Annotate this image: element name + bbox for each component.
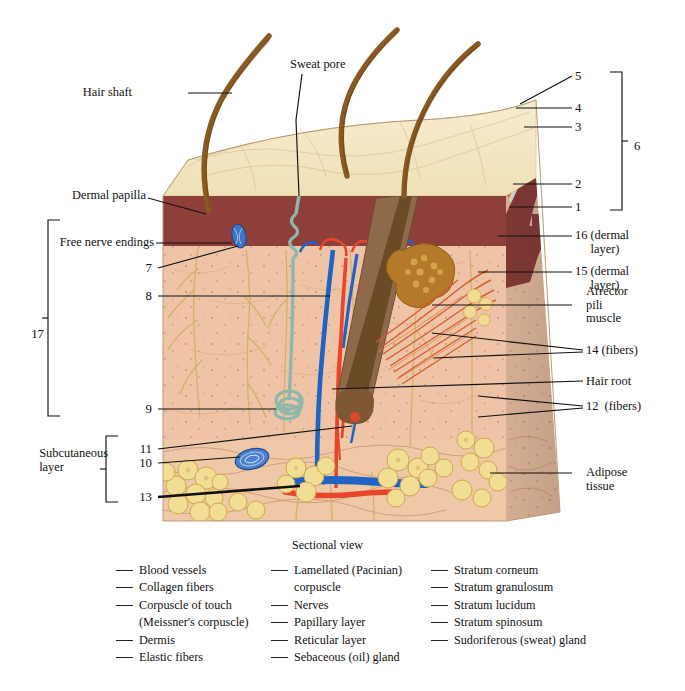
label-dermal-papilla: Dermal papilla [72,189,146,203]
label-hair-shaft: Hair shaft [83,86,132,100]
label-number-2: 2 [575,177,591,191]
legend-item[interactable]: corpuscle [271,579,426,596]
label-number-12: 12 (fibers) [586,400,641,414]
legend-item-label: Sudoriferous (sweat) gland [454,633,586,647]
legend-item[interactable]: Elastic fibers [116,649,266,666]
legend-blank-line[interactable] [431,587,448,588]
legend-blank-line[interactable] [116,640,133,641]
legend-item[interactable]: Nerves [271,597,426,614]
caption-sectional-view: Sectional view [292,538,363,553]
legend-blank-line[interactable] [271,570,288,571]
legend-item[interactable]: Sebaceous (oil) gland [271,649,426,666]
label-number-10: 10 [122,456,152,470]
legend-blank-line[interactable] [116,605,133,606]
legend-blank-line[interactable] [116,657,133,658]
label-number-4: 4 [575,101,591,115]
legend-item[interactable]: Collagen fibers [116,579,266,596]
legend-item[interactable]: Lamellated (Pacinian) [271,562,426,579]
label-hair-root: Hair root [586,375,631,389]
legend-item[interactable]: (Meissner's corpuscle) [116,614,266,631]
legend-blank-line[interactable] [431,605,448,606]
legend-item-label: Stratum lucidum [454,598,536,612]
legend-column-2: Lamellated (Pacinian)corpuscleNervesPapi… [271,562,426,666]
legend-item-label: Reticular layer [294,633,366,647]
label-free-nerve-endings: Free nerve endings [60,236,154,250]
legend-item-label: Stratum granulosum [454,580,553,594]
label-number-6: 6 [634,139,650,153]
legend-item[interactable]: Sudoriferous (sweat) gland [431,632,631,649]
legend-blank-line[interactable] [271,657,288,658]
legend-item[interactable]: Blood vessels [116,562,266,579]
legend-item-label: Stratum spinosum [454,615,542,629]
legend-blank-line[interactable] [271,622,288,623]
legend-item-label: Corpuscle of touch [139,598,232,612]
label-number-8: 8 [122,289,152,303]
label-number-3: 3 [575,120,591,134]
legend-blank-line[interactable] [431,570,448,571]
legend-item[interactable]: Reticular layer [271,632,426,649]
bracket-6 [608,70,628,212]
legend-column-3: Stratum corneumStratum granulosumStratum… [431,562,631,649]
legend-item-label: Dermis [139,633,175,647]
legend-item-label: Sebaceous (oil) gland [294,650,400,664]
legend-item-label: Blood vessels [139,563,206,577]
legend-blank-line[interactable] [431,622,448,623]
legend-item[interactable]: Stratum corneum [431,562,631,579]
legend-item[interactable]: Stratum granulosum [431,579,631,596]
legend-blank-line[interactable] [116,587,133,588]
legend-item-label: (Meissner's corpuscle) [139,615,248,629]
legend-item-label: Nerves [294,598,329,612]
label-number-1: 1 [575,200,591,214]
legend-item-label: corpuscle [294,580,341,594]
label-subcutaneous-layer: Subcutaneous layer [39,447,108,474]
legend-item-label: Stratum corneum [454,563,538,577]
legend-blank-line[interactable] [271,640,288,641]
legend-blank-line[interactable] [271,605,288,606]
legend-blank-line[interactable] [116,570,133,571]
label-adipose-tissue: Adipose tissue [586,466,627,493]
legend-item-label: Elastic fibers [139,650,203,664]
legend-item[interactable]: Papillary layer [271,614,426,631]
legend-item[interactable]: Dermis [116,632,266,649]
label-number-14: 14 (fibers) [586,344,638,358]
label-number-11: 11 [122,442,152,456]
skin-anatomy-figure: Hair shaft Sweat pore Dermal papilla Fre… [0,0,685,691]
legend-blank-line[interactable] [431,640,448,641]
label-arrector-pili-muscle: Arrector pili muscle [586,285,628,326]
bracket-subcutaneous [100,434,120,504]
legend-item-label: Papillary layer [294,615,365,629]
label-number-7: 7 [122,261,152,275]
legend-item[interactable]: Stratum spinosum [431,614,631,631]
legend-item-label: Collagen fibers [139,580,214,594]
label-number-16: 16 (dermal layer) [575,229,629,256]
legend-item[interactable]: Stratum lucidum [431,597,631,614]
label-number-13: 13 [122,490,152,504]
legend: Blood vesselsCollagen fibersCorpuscle of… [0,562,685,662]
label-number-9: 9 [122,402,152,416]
legend-item-label: Lamellated (Pacinian) [294,563,402,577]
bracket-17 [42,218,62,418]
label-number-5: 5 [575,69,591,83]
legend-column-1: Blood vesselsCollagen fibersCorpuscle of… [116,562,266,666]
legend-item[interactable]: Corpuscle of touch [116,597,266,614]
label-sweat-pore: Sweat pore [290,58,345,72]
label-number-17: 17 [22,327,44,341]
